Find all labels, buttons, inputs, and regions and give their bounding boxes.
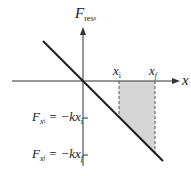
x-axis-label: x	[182, 73, 189, 88]
x-tick-label-xf: xf	[149, 64, 157, 80]
x-tick-label-xi: xi	[113, 64, 121, 80]
y-axis-arrow-icon	[80, 27, 86, 35]
work-area-shading	[119, 81, 155, 155]
y-tick-label-fxf: Fxf = −kxf	[32, 147, 83, 163]
x-axis-arrow-icon	[172, 78, 180, 84]
y-axis-label: Fresx	[75, 6, 96, 23]
force-vs-displacement-plot	[0, 0, 191, 176]
y-tick-label-fxi: Fxi = −kxi	[32, 110, 83, 126]
